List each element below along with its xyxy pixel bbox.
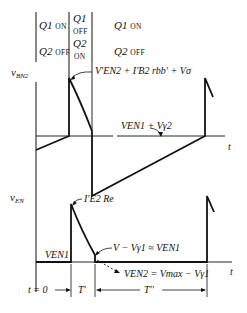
bottom-y-label: vEN — [10, 192, 24, 205]
phase2-q1-label: Q1 — [73, 13, 86, 24]
bottom-x-label: t — [230, 267, 233, 277]
phase2-q2-state: ON — [74, 53, 85, 61]
phase3-q2-label: Q2 OFF — [114, 46, 145, 57]
phase1-q2-label: Q2 OFF — [39, 46, 70, 57]
top-peak-annotation: V′EN2 + I′B2 rbb′ + Vσ — [95, 66, 191, 76]
phase2-q2-label: Q2 — [73, 38, 86, 49]
phase1-q1-label: Q1 ON — [39, 20, 67, 31]
t0-label: t = 0 — [28, 285, 48, 295]
t-prime-label: T′ — [78, 285, 86, 295]
knee-annotation: V − Vγ1 ≈ VEN1 — [113, 243, 180, 253]
top-y-label: vBN2 — [11, 67, 28, 80]
phase2-q1-state: OFF — [73, 28, 88, 36]
top-level-annotation: VEN1 + Vγ2 — [121, 121, 172, 131]
baseline-label: VEN1 — [45, 250, 69, 260]
bottom-peak-annotation: I′E2 Re — [84, 194, 114, 204]
top-x-label: t — [228, 142, 231, 152]
phase3-q1-label: Q1 ON — [114, 20, 142, 31]
ven2-annotation: VEN2 = Vmax − Vγ1 — [124, 269, 209, 279]
vbn2-waveform — [36, 78, 213, 196]
peak-arrow — [72, 72, 92, 78]
t-double-prime-label: T′′ — [144, 285, 154, 295]
